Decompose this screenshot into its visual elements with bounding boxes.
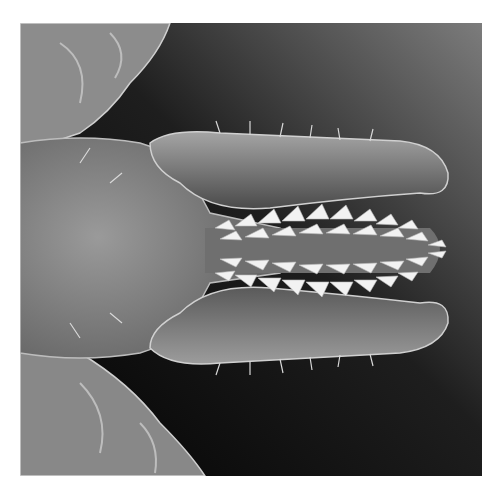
micrograph-frame: Grayscale scanning electron micrograph o… [20,23,482,476]
tick-mouthparts-micrograph [20,23,482,476]
hypostome [205,228,440,273]
